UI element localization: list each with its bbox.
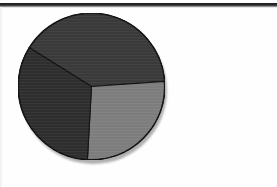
page-top-rule-secondary [0,7,277,8]
pie-chart [18,13,165,161]
pie-slice-teenage[interactable] [87,81,165,160]
pie-chart-svg [18,13,165,160]
chart-legend: Children Teenage Adult [186,100,277,178]
pie-chart-screenshot: Children Teenage Adult [0,0,277,187]
page-left-edge [0,7,2,187]
